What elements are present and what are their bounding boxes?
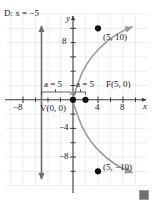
lower-latus-point (95, 168, 101, 174)
vertex-label: V(0, 0) (40, 104, 66, 113)
x-tick-label-4: 4 (95, 103, 100, 112)
distance-label-left: a = 5 (44, 80, 62, 89)
upper-point-label: (5, 10) (103, 33, 127, 42)
x-axis-label: x (143, 102, 147, 111)
x-tick-label-neg8: −8 (13, 103, 23, 112)
y-tick-label-neg8: −8 (59, 152, 69, 161)
distance-label-right: a = 5 (76, 80, 94, 89)
upper-latus-point (95, 25, 101, 31)
y-tick-label-neg4: −4 (59, 123, 69, 132)
x-tick-label-8: 8 (120, 103, 125, 112)
parabola-figure (0, 0, 155, 205)
vertex-point (70, 97, 76, 103)
lower-point-label: (5, −10) (103, 163, 132, 172)
focus-point (82, 97, 88, 103)
directrix-label: D: x = −5 (4, 9, 39, 18)
y-axis-label: y (66, 14, 70, 23)
corner-marker (139, 190, 149, 200)
y-tick-label-8: 8 (62, 37, 67, 46)
focus-label: F(5, 0) (106, 80, 131, 89)
